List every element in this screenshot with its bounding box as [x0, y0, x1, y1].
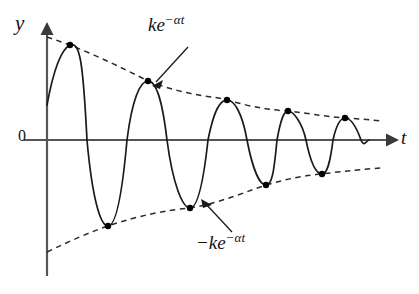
damped-oscillation-figure: y t 0 ke−αt −ke−αt: [0, 0, 419, 294]
lower-label-exponent: −αt: [226, 230, 246, 245]
lower-label-k: k: [209, 232, 217, 253]
lower-label-sign: −: [196, 232, 209, 253]
lower-label-e: e: [217, 232, 225, 253]
y-axis: [41, 22, 54, 276]
upper-envelope-curve: [47, 37, 382, 121]
lower-envelope-label: −ke−αt: [196, 232, 245, 252]
peak-marker-3: [224, 97, 230, 103]
t-axis-label: t: [401, 128, 406, 147]
y-axis-arrowhead: [41, 22, 54, 35]
peak-marker-1: [67, 42, 73, 48]
origin-label: 0: [18, 128, 26, 144]
oscillation-curve: [47, 45, 369, 226]
trough-marker-3: [263, 182, 269, 188]
upper-annotation-arrow: [152, 47, 188, 89]
upper-envelope-label: ke−αt: [148, 14, 185, 34]
upper-label-e: e: [156, 14, 164, 35]
t-axis-arrowhead: [386, 134, 399, 147]
trough-markers: [105, 171, 325, 229]
lower-arrow-shaft: [205, 203, 232, 232]
trough-marker-1: [105, 223, 111, 229]
peak-markers: [67, 42, 348, 121]
upper-label-exponent: −αt: [165, 12, 185, 27]
peak-marker-2: [145, 78, 151, 84]
trough-marker-2: [187, 205, 193, 211]
peak-marker-4: [285, 108, 291, 114]
y-axis-label: y: [15, 13, 24, 34]
t-axis: [24, 134, 399, 147]
trough-marker-4: [319, 171, 325, 177]
lower-annotation-arrow: [201, 199, 232, 232]
peak-marker-5: [342, 115, 348, 121]
upper-arrow-shaft: [156, 47, 188, 82]
